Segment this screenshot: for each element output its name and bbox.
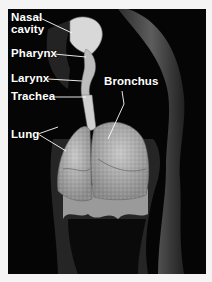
label-nasal-cavity-line2: cavity xyxy=(11,23,44,35)
label-nasal-cavity-line1: Nasal xyxy=(11,11,44,23)
respiratory-system-figure: Nasal cavity Pharynx Larynx Trachea Lung… xyxy=(8,9,206,274)
trachea xyxy=(82,95,96,131)
label-nasal-cavity: Nasal cavity xyxy=(11,11,44,35)
label-trachea: Trachea xyxy=(11,90,55,102)
label-bronchus: Bronchus xyxy=(104,75,158,87)
label-lung: Lung xyxy=(11,128,40,140)
pharynx xyxy=(81,49,95,97)
label-larynx: Larynx xyxy=(11,72,49,84)
label-pharynx: Pharynx xyxy=(11,47,57,59)
